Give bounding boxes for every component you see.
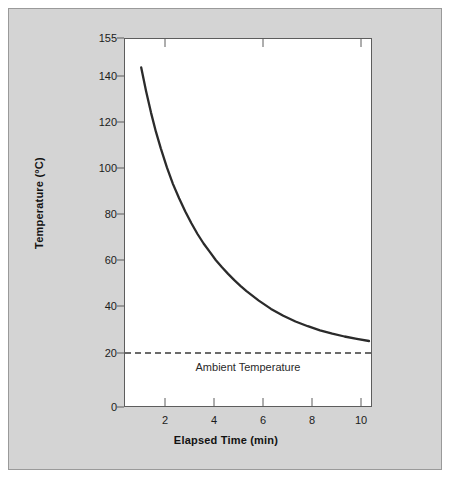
- x-tick-label-4: 4: [199, 415, 229, 426]
- y-axis-title: Temperature (°C): [33, 133, 45, 273]
- x-tick-label-8: 8: [297, 415, 327, 426]
- figure-panel: 155 140 120 100 80 60 40 20 0 2 4 6 8 10…: [8, 8, 442, 470]
- x-axis-title: Elapsed Time (min): [9, 434, 443, 446]
- x-tick-label-2: 2: [150, 415, 180, 426]
- x-axis-tick-labels: 2 4 6 8 10: [9, 9, 443, 471]
- x-tick-label-10: 10: [346, 415, 376, 426]
- x-tick-label-6: 6: [248, 415, 278, 426]
- ambient-temperature-annotation: Ambient Temperature: [124, 361, 372, 373]
